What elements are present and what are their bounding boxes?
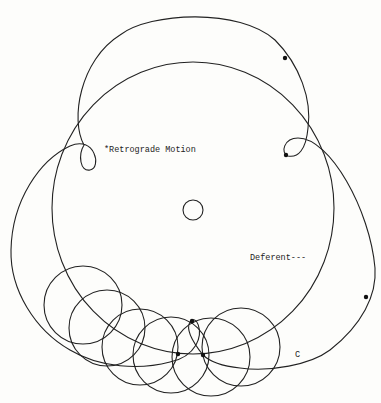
deferent-circle bbox=[52, 62, 334, 354]
planet-position-dot bbox=[190, 319, 194, 323]
planet-position-dot bbox=[283, 56, 287, 60]
epicycle-circle bbox=[133, 317, 209, 393]
point-c-label: C bbox=[295, 351, 300, 360]
deferent-label: Deferent--- bbox=[250, 254, 306, 263]
planet-position-dot bbox=[364, 295, 368, 299]
epicycle-circle bbox=[202, 308, 280, 386]
planet-dots-group bbox=[176, 56, 368, 357]
epicycles-group bbox=[44, 266, 280, 396]
epicycle-diagram: *Retrograde Motion Deferent--- C bbox=[0, 0, 381, 403]
planet-position-dot bbox=[176, 352, 180, 356]
epicycle-circle bbox=[44, 266, 122, 344]
planet-position-dot bbox=[284, 153, 288, 157]
diagram-canvas bbox=[0, 0, 381, 403]
retrograde-motion-label: *Retrograde Motion bbox=[104, 146, 196, 155]
earth-circle bbox=[183, 200, 203, 220]
planet-path-curve bbox=[11, 17, 375, 369]
planet-position-dot bbox=[201, 353, 205, 357]
